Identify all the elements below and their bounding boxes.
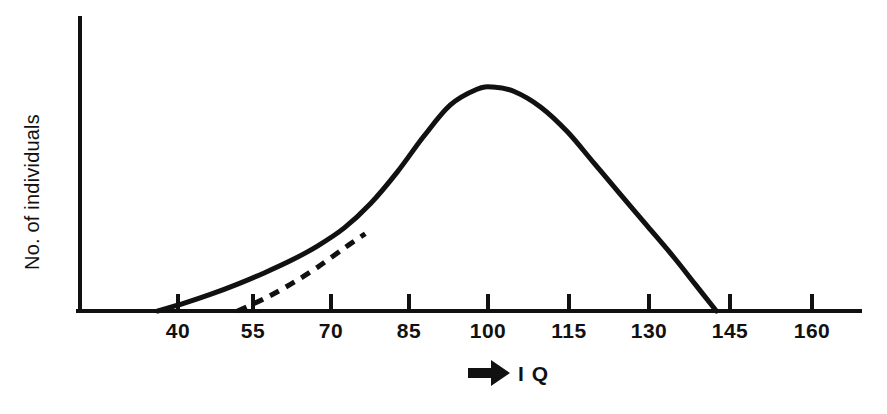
iq-distribution-figure: 40557085100115130145160 No. of individua… xyxy=(0,0,887,414)
normal-curve-extrapolation-dashed xyxy=(238,234,366,311)
x-tick-label-130: 130 xyxy=(631,320,668,341)
x-tick-label-70: 70 xyxy=(319,320,343,341)
x-tick-label-160: 160 xyxy=(794,320,831,341)
plot-canvas xyxy=(0,0,887,414)
x-tick-label-55: 55 xyxy=(241,320,265,341)
x-tick-label-40: 40 xyxy=(166,320,190,341)
y-axis-title: No. of individuals xyxy=(21,114,43,270)
x-tick-label-85: 85 xyxy=(397,320,421,341)
right-arrow-icon xyxy=(468,360,510,386)
x-axis-title-label: I Q xyxy=(518,363,549,384)
x-axis-title-group: I Q xyxy=(468,360,549,386)
axis-lines xyxy=(78,18,860,311)
x-tick-label-145: 145 xyxy=(712,320,749,341)
x-tick-label-100: 100 xyxy=(470,320,507,341)
observed-iq-distribution-curve xyxy=(158,87,717,311)
x-tick-label-115: 115 xyxy=(551,320,586,341)
